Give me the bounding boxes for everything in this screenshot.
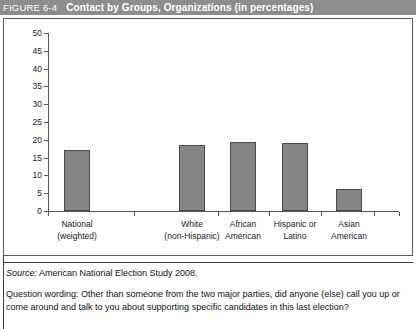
figure-header: FIGURE 6-4 Contact by Groups, Organizati… <box>0 0 416 15</box>
y-axis-tick <box>44 33 48 34</box>
y-axis-tick <box>44 51 48 52</box>
source-text: American National Election Study 2008. <box>37 268 198 278</box>
x-axis-category-label: AfricanAmerican <box>225 219 261 242</box>
bar <box>64 150 90 211</box>
x-axis-tick <box>218 212 219 216</box>
x-axis-category-line: Asian <box>331 219 367 231</box>
bar <box>179 145 205 211</box>
plot-area: 05101520253035404550National(weighted)Wh… <box>4 19 412 255</box>
x-axis-tick <box>48 212 49 216</box>
x-axis-category-label: Hispanic orLatino <box>274 219 317 242</box>
notes-left-border <box>3 256 4 329</box>
y-axis-tick-label: 5 <box>22 189 42 198</box>
bar <box>336 189 362 211</box>
bar <box>230 142 256 211</box>
bar <box>282 143 308 211</box>
y-axis-tick <box>44 193 48 194</box>
y-axis-tick <box>44 158 48 159</box>
x-axis-category-line: White <box>164 219 219 231</box>
y-axis-tick-label: 45 <box>22 47 42 56</box>
x-axis-category-line: (non-Hispanic) <box>164 231 219 243</box>
y-axis-tick <box>44 140 48 141</box>
x-axis-category-label: White(non-Hispanic) <box>164 219 219 242</box>
y-axis-labels: 05101520253035404550 <box>18 19 42 255</box>
y-axis-tick <box>44 104 48 105</box>
y-axis-tick-label: 10 <box>22 171 42 180</box>
y-axis-tick-label: 35 <box>22 82 42 91</box>
x-axis-category-label: AsianAmerican <box>331 219 367 242</box>
y-axis-tick-label: 30 <box>22 100 42 109</box>
x-axis-category-line: (weighted) <box>57 231 97 243</box>
x-axis-category-line: Latino <box>274 231 317 243</box>
x-axis-tick <box>399 212 400 216</box>
y-axis-tick-label: 25 <box>22 118 42 127</box>
y-axis-tick-label: 15 <box>22 153 42 162</box>
y-axis-tick-label: 20 <box>22 136 42 145</box>
notes-divider <box>3 262 413 263</box>
y-axis-tick-label: 0 <box>22 207 42 216</box>
source-label: Source: <box>6 268 37 278</box>
figure-container: FIGURE 6-4 Contact by Groups, Organizati… <box>0 0 416 329</box>
x-axis-category-line: Hispanic or <box>274 219 317 231</box>
x-axis-tick <box>134 212 135 216</box>
x-axis-tick <box>269 212 270 216</box>
y-axis-tick-label: 50 <box>22 29 42 38</box>
figure-number: FIGURE 6-4 <box>3 2 57 13</box>
x-axis-category-line: African <box>225 219 261 231</box>
chart-frame: 05101520253035404550National(weighted)Wh… <box>3 18 413 256</box>
y-axis-tick-label: 40 <box>22 64 42 73</box>
figure-title: Contact by Groups, Organizations (in per… <box>66 2 313 13</box>
y-axis-tick <box>44 175 48 176</box>
x-axis-category-label: National(weighted) <box>57 219 97 242</box>
x-axis-category-line: American <box>225 231 261 243</box>
y-axis-tick <box>44 86 48 87</box>
x-axis-line <box>48 211 399 212</box>
source-note: Source: American National Election Study… <box>6 268 198 278</box>
x-axis-category-line: National <box>57 219 97 231</box>
y-axis-tick <box>44 122 48 123</box>
question-wording-note: Question wording: Other than someone fro… <box>6 288 410 314</box>
x-axis-tick <box>374 212 375 216</box>
y-axis-line <box>48 33 49 211</box>
y-axis-tick <box>44 69 48 70</box>
x-axis-tick <box>321 212 322 216</box>
x-axis-category-line: American <box>331 231 367 243</box>
